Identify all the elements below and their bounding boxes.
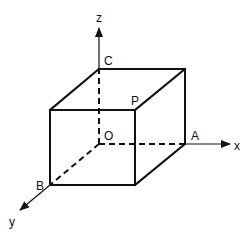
box-diagram: z x y C P O A B bbox=[0, 0, 252, 236]
label-point-A: A bbox=[191, 129, 199, 143]
edge-O-B bbox=[50, 144, 99, 185]
y-axis bbox=[20, 185, 50, 210]
label-point-P: P bbox=[131, 94, 139, 108]
edge-C-fronttopleft bbox=[50, 69, 99, 110]
label-point-C: C bbox=[104, 54, 113, 68]
front-face bbox=[50, 110, 135, 185]
label-z-axis: z bbox=[96, 11, 102, 25]
label-point-O: O bbox=[104, 129, 113, 143]
label-x-axis: x bbox=[234, 139, 240, 153]
diagram-canvas: z x y C P O A B bbox=[0, 0, 252, 236]
label-point-B: B bbox=[36, 179, 44, 193]
edge-A-frontbottomright bbox=[135, 144, 185, 185]
label-y-axis: y bbox=[9, 215, 15, 229]
edge-topright-P bbox=[135, 69, 185, 110]
